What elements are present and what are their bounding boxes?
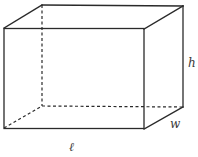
edge-top-left-depth xyxy=(4,5,42,28)
hidden-edges xyxy=(4,5,183,128)
height-label: h xyxy=(188,56,196,70)
edge-top-right-depth xyxy=(144,6,183,29)
visible-edges xyxy=(4,5,183,129)
front-face xyxy=(4,29,144,129)
width-label: w xyxy=(170,117,181,131)
hidden-edge-bottom-left-depth xyxy=(4,106,42,128)
hidden-edge-back-bottom xyxy=(42,106,183,107)
length-label: ℓ xyxy=(69,140,74,154)
rectangular-prism-diagram: h w ℓ xyxy=(0,0,198,157)
edge-back-top xyxy=(42,5,183,6)
